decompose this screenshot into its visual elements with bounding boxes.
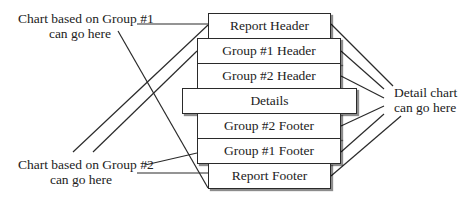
annotation-line-1: Chart based on Group #2 <box>18 157 144 172</box>
group2-chart-annotation: Chart based on Group #2 can go here <box>18 157 144 187</box>
group1-chart-annotation: Chart based on Group #1 can go here <box>18 11 142 41</box>
report-sections-diagram: Report Header Group #1 Header Group #2 H… <box>0 0 469 197</box>
annotation-line-1: Detail chart <box>394 85 466 100</box>
annotation-line-2: can go here <box>394 100 466 115</box>
details-band: Details <box>182 88 357 114</box>
band-label: Report Header <box>230 18 309 34</box>
annotation-line-1: Chart based on Group #1 <box>18 11 142 26</box>
band-label: Report Footer <box>232 168 307 184</box>
band-label: Details <box>250 93 288 109</box>
group1-footer-band: Group #1 Footer <box>197 138 341 164</box>
band-label: Group #1 Header <box>222 43 316 59</box>
detail-chart-annotation: Detail chart can go here <box>394 85 466 115</box>
annotation-line-2: can go here <box>18 172 144 187</box>
report-footer-to-detail-line <box>331 116 401 176</box>
annotation-line-2: can go here <box>18 26 142 41</box>
report-footer-band: Report Footer <box>208 163 331 189</box>
group1-header-band: Group #1 Header <box>197 38 341 64</box>
band-label: Group #2 Footer <box>224 118 314 134</box>
group1-footer-to-detail-line <box>341 114 384 152</box>
group2-header-band: Group #2 Header <box>197 63 341 89</box>
report-header-band: Report Header <box>208 13 331 39</box>
band-label: Group #1 Footer <box>224 143 314 159</box>
band-label: Group #2 Header <box>222 68 316 84</box>
group2-footer-band: Group #2 Footer <box>197 113 341 139</box>
